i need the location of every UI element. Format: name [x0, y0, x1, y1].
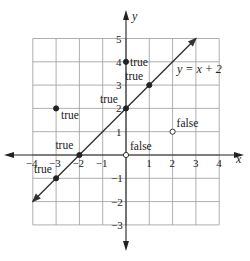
x-tick-label: 2	[170, 157, 176, 169]
y-tick-label: 1	[116, 126, 122, 138]
point-label-true: true	[130, 56, 148, 68]
x-tick-label: 1	[146, 157, 152, 169]
open-point	[170, 129, 175, 134]
y-tick-label: −2	[111, 196, 123, 208]
point-label-false: false	[130, 140, 152, 152]
filled-point	[147, 83, 152, 88]
y-tick-label: 5	[116, 33, 122, 45]
x-tick-label: −1	[96, 157, 108, 169]
coordinate-graph: −4−3−2−1123454321−1−2−3 truetruetruetrue…	[0, 0, 250, 261]
point-label-true: true	[100, 93, 118, 105]
point-label-true: true	[125, 70, 143, 82]
y-tick-label: 4	[116, 56, 122, 68]
filled-point	[54, 106, 59, 111]
filled-point	[123, 59, 128, 64]
equation-label: y = x + 2	[176, 62, 222, 76]
x-axis-label: x	[235, 152, 242, 166]
filled-point	[77, 152, 82, 157]
x-tick-label: 4	[216, 157, 222, 169]
point-label-true: true	[61, 109, 79, 121]
point-label-true: true	[34, 163, 52, 175]
y-tick-label: 3	[116, 79, 122, 91]
point-label-true: true	[55, 139, 73, 151]
filled-point	[123, 106, 128, 111]
open-point	[123, 152, 128, 157]
y-axis-label: y	[131, 9, 138, 23]
x-tick-label: 3	[193, 157, 199, 169]
y-axis-arrow-down-icon	[123, 241, 129, 251]
y-tick-label: −3	[111, 219, 123, 231]
point-label-false: false	[177, 117, 199, 129]
y-axis-arrow-up-icon	[123, 10, 129, 20]
filled-point	[54, 176, 59, 181]
x-tick-label: −2	[72, 157, 84, 169]
axes	[4, 10, 244, 251]
x-axis-arrow-left-icon	[4, 152, 14, 158]
y-tick-label: −1	[111, 172, 123, 184]
